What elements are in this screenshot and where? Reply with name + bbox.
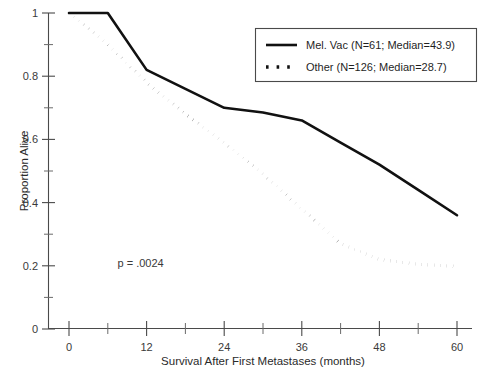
legend: Mel. Vac (N=61; Median=43.9) Other (N=12… xyxy=(256,29,477,82)
x-axis-title: Survival After First Metastases (months) xyxy=(161,355,365,367)
x-tick-label: 24 xyxy=(218,341,230,353)
y-tick-label: 0.8 xyxy=(23,70,38,82)
survival-curve-figure: 00.20.40.60.81 Proportion Alive 01224364… xyxy=(0,0,490,377)
legend-frame xyxy=(256,29,477,82)
legend-label-0: Mel. Vac (N=61; Median=43.9) xyxy=(306,39,455,51)
legend-label-1: Other (N=126; Median=28.7) xyxy=(306,61,447,73)
x-tick-label: 60 xyxy=(451,341,463,353)
chart-annotations: p = .0024 xyxy=(118,257,164,269)
x-tick-label: 36 xyxy=(296,341,308,353)
y-tick-label: 0 xyxy=(32,323,38,335)
y-tick-label: 1 xyxy=(32,7,38,19)
annotation-p-value: p = .0024 xyxy=(118,257,164,269)
y-tick-label: 0.2 xyxy=(23,260,38,272)
y-axis-title: Proportion Alive xyxy=(18,131,30,212)
x-tick-label: 0 xyxy=(66,341,72,353)
x-tick-label: 48 xyxy=(373,341,385,353)
x-tick-label: 12 xyxy=(140,341,152,353)
